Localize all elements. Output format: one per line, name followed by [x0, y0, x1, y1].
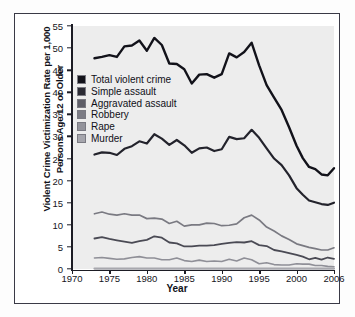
y-tick-mark: [67, 92, 72, 93]
legend-label: Total violent crime: [91, 74, 171, 85]
chart-legend: Total violent crimeSimple assaultAggrava…: [77, 74, 177, 144]
legend-item: Total violent crime: [77, 74, 177, 86]
x-tick-mark: [109, 270, 110, 274]
plot-area: [72, 26, 334, 269]
y-tick-mark: [67, 224, 72, 225]
legend-item: Simple assault: [77, 86, 177, 98]
legend-label: Simple assault: [91, 86, 156, 97]
legend-label: Aggravated assault: [91, 98, 177, 109]
y-tick-label: 30: [23, 131, 63, 142]
y-tick-label: 35: [23, 109, 63, 120]
legend-label: Murder: [91, 133, 123, 144]
y-tick-mark: [67, 246, 72, 247]
y-tick-mark: [67, 202, 72, 203]
y-tick-mark: [67, 180, 72, 181]
x-tick-mark: [259, 270, 260, 274]
y-tick-mark: [67, 136, 72, 137]
y-tick-mark: [67, 158, 72, 159]
y-tick-label: 25: [23, 153, 63, 164]
x-tick-mark: [222, 270, 223, 274]
y-tick-label: 5: [23, 241, 63, 252]
legend-item: Robbery: [77, 109, 177, 121]
x-tick-mark: [184, 270, 185, 274]
y-tick-label: 55: [23, 21, 63, 32]
legend-swatch-icon: [77, 99, 86, 108]
y-axis-line: [71, 24, 73, 271]
x-tick-mark: [334, 270, 335, 274]
legend-item: Rape: [77, 121, 177, 133]
legend-label: Robbery: [91, 109, 129, 120]
y-tick-mark: [67, 25, 72, 26]
x-axis-label: Year: [15, 283, 339, 294]
legend-swatch-icon: [77, 110, 86, 119]
y-tick-label: 45: [23, 65, 63, 76]
y-tick-label: 15: [23, 197, 63, 208]
y-tick-label: 40: [23, 87, 63, 98]
legend-item: Aggravated assault: [77, 97, 177, 109]
legend-swatch-icon: [77, 75, 86, 84]
legend-item: Murder: [77, 132, 177, 144]
y-tick-label: 10: [23, 219, 63, 230]
y-tick-label: 50: [23, 43, 63, 54]
x-tick-mark: [72, 270, 73, 274]
legend-swatch-icon: [77, 134, 86, 143]
y-tick-mark: [67, 69, 72, 70]
x-tick-mark: [147, 270, 148, 274]
y-tick-label: 20: [23, 175, 63, 186]
legend-label: Rape: [91, 121, 115, 132]
y-tick-mark: [67, 114, 72, 115]
chart-figure: Violent Crime Victimization Rate per 1,0…: [0, 0, 355, 317]
y-tick-mark: [67, 47, 72, 48]
chart-frame: Violent Crime Victimization Rate per 1,0…: [14, 13, 340, 304]
legend-swatch-icon: [77, 122, 86, 131]
legend-swatch-icon: [77, 87, 86, 96]
x-tick-mark: [297, 270, 298, 274]
